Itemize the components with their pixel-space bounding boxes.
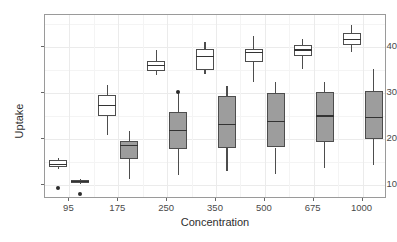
x-axis-tick-mark bbox=[264, 198, 265, 201]
box-rect bbox=[120, 141, 138, 159]
whisker-upper bbox=[373, 69, 374, 91]
whisker-upper bbox=[226, 86, 227, 96]
x-axis-tick-mark bbox=[215, 198, 216, 201]
grid-line-vertical bbox=[69, 15, 70, 197]
grid-line-vertical bbox=[314, 15, 315, 197]
outlier-point bbox=[56, 186, 60, 190]
boxplot-chart: Uptake Concentration 10203040 9517525035… bbox=[0, 0, 397, 242]
plot-panel bbox=[44, 14, 386, 198]
whisker-lower bbox=[226, 148, 227, 172]
grid-line-vertical bbox=[118, 15, 119, 197]
x-axis-tick-mark bbox=[117, 198, 118, 201]
x-axis-tick-mark bbox=[68, 198, 69, 201]
grid-line-horizontal bbox=[45, 139, 385, 140]
grid-line-horizontal bbox=[45, 185, 385, 186]
grid-line-vertical bbox=[216, 15, 217, 197]
x-axis-tick-label: 350 bbox=[207, 203, 223, 213]
whisker-upper bbox=[129, 131, 130, 141]
median-line bbox=[316, 115, 334, 117]
median-line bbox=[71, 181, 89, 183]
whisker-lower bbox=[156, 71, 157, 75]
grid-line-vertical-minor bbox=[94, 15, 95, 197]
x-axis-tick-mark bbox=[362, 198, 363, 201]
grid-line-vertical-minor bbox=[192, 15, 193, 197]
median-line bbox=[267, 121, 285, 123]
whisker-lower bbox=[80, 183, 81, 184]
whisker-lower bbox=[58, 167, 59, 169]
whisker-upper bbox=[178, 93, 179, 111]
whisker-lower bbox=[204, 70, 205, 74]
grid-line-horizontal-minor bbox=[45, 162, 385, 163]
median-line bbox=[343, 39, 361, 41]
outlier-point bbox=[176, 90, 180, 94]
grid-line-vertical-minor bbox=[143, 15, 144, 197]
x-axis-tick-label: 500 bbox=[256, 203, 272, 213]
grid-line-vertical bbox=[167, 15, 168, 197]
grid-line-horizontal bbox=[45, 93, 385, 94]
grid-line-horizontal-minor bbox=[45, 24, 385, 25]
whisker-lower bbox=[351, 45, 352, 52]
x-axis-tick-label: 95 bbox=[63, 203, 74, 213]
x-axis-tick-mark bbox=[313, 198, 314, 201]
grid-line-horizontal bbox=[45, 47, 385, 48]
x-axis-tick-mark bbox=[166, 198, 167, 201]
grid-line-horizontal-minor bbox=[45, 70, 385, 71]
median-line bbox=[120, 145, 138, 147]
grid-line-vertical-minor bbox=[289, 15, 290, 197]
grid-line-vertical bbox=[265, 15, 266, 197]
x-axis-tick-label: 175 bbox=[109, 203, 125, 213]
outlier-point bbox=[78, 192, 82, 196]
grid-line-vertical-minor bbox=[338, 15, 339, 197]
median-line bbox=[245, 52, 263, 54]
whisker-lower bbox=[302, 56, 303, 68]
box-rect bbox=[365, 91, 383, 138]
whisker-upper bbox=[351, 25, 352, 33]
whisker-lower bbox=[129, 159, 130, 179]
median-line bbox=[169, 130, 187, 132]
x-axis-tick-label: 250 bbox=[158, 203, 174, 213]
whisker-upper bbox=[275, 82, 276, 93]
grid-line-vertical bbox=[363, 15, 364, 197]
whisker-upper bbox=[324, 82, 325, 92]
median-line bbox=[218, 124, 236, 126]
box-rect bbox=[196, 49, 214, 71]
whisker-upper bbox=[253, 36, 254, 49]
whisker-lower bbox=[178, 149, 179, 175]
x-axis-tick-label: 675 bbox=[305, 203, 321, 213]
median-line bbox=[49, 164, 67, 166]
median-line bbox=[196, 56, 214, 58]
whisker-lower bbox=[253, 62, 254, 82]
median-line bbox=[294, 49, 312, 51]
whisker-upper bbox=[204, 42, 205, 49]
y-axis-title: Uptake bbox=[13, 104, 25, 139]
whisker-upper bbox=[107, 85, 108, 95]
whisker-upper bbox=[156, 50, 157, 62]
median-line bbox=[98, 105, 116, 107]
median-line bbox=[365, 117, 383, 119]
x-axis-tick-label: 1000 bbox=[351, 203, 372, 213]
whisker-lower bbox=[324, 142, 325, 168]
whisker-lower bbox=[373, 139, 374, 165]
x-axis-title: Concentration bbox=[44, 216, 386, 228]
median-line bbox=[147, 65, 165, 67]
box-rect bbox=[218, 96, 236, 148]
whisker-lower bbox=[275, 148, 276, 174]
grid-line-horizontal-minor bbox=[45, 116, 385, 117]
box-rect bbox=[316, 92, 334, 142]
whisker-lower bbox=[107, 116, 108, 134]
grid-line-vertical-minor bbox=[240, 15, 241, 197]
